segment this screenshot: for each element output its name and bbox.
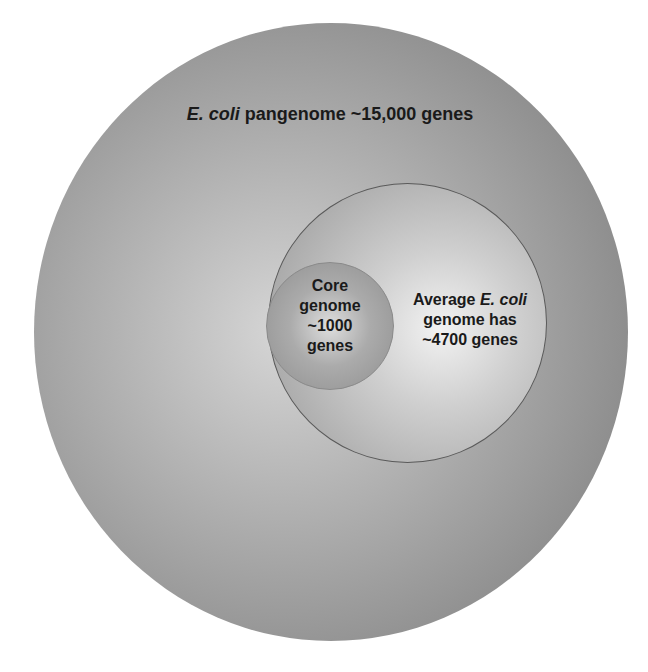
average-prefix: Average	[413, 291, 476, 308]
pangenome-text: pangenome ~15,000 genes	[245, 104, 474, 124]
average-genome-label: Average E. coli genome has ~4700 genes	[394, 290, 546, 350]
core-line-3: ~1000	[266, 316, 394, 336]
core-line-1: Core	[266, 276, 394, 296]
average-line-3: ~4700 genes	[394, 330, 546, 350]
average-line-1: Average E. coli	[394, 290, 546, 310]
core-line-4: genes	[266, 336, 394, 356]
pangenome-diagram: E. coli pangenome ~15,000 genes Core gen…	[0, 0, 648, 672]
pangenome-label: E. coli pangenome ~15,000 genes	[170, 103, 490, 126]
average-line-2: genome has	[394, 310, 546, 330]
species-name: E. coli	[480, 291, 527, 308]
core-line-2: genome	[266, 296, 394, 316]
core-genome-label: Core genome ~1000 genes	[266, 276, 394, 356]
species-name: E. coli	[187, 104, 240, 124]
